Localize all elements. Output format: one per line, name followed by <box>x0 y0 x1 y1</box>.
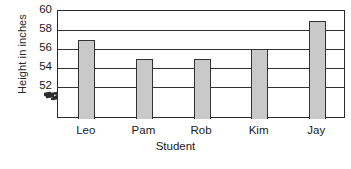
gridline <box>58 30 344 31</box>
x-axis-tick-label: Rob <box>171 124 231 136</box>
bar-pam <box>136 59 153 120</box>
x-axis-tick-label: Kim <box>229 124 289 136</box>
y-axis-tick-label: 60 <box>22 4 52 16</box>
bar-chart: Height in inches 5254565860 Student LeoP… <box>0 0 351 169</box>
plot-area <box>57 10 345 118</box>
clipped-caption-text <box>10 162 340 169</box>
bar-jay <box>309 21 326 120</box>
x-axis-tick-label: Pam <box>113 124 173 136</box>
gridline <box>58 49 344 50</box>
x-axis-tick-label: Jay <box>286 124 346 136</box>
y-axis-tick-label: 58 <box>22 23 52 35</box>
x-axis-title: Student <box>0 140 351 152</box>
bar-leo <box>78 40 95 120</box>
x-axis-tick-label: Leo <box>56 124 116 136</box>
y-axis-tick-label: 54 <box>22 61 52 73</box>
bar-rob <box>194 59 211 120</box>
bar-kim <box>251 49 268 119</box>
y-axis-tick-label: 56 <box>22 42 52 54</box>
